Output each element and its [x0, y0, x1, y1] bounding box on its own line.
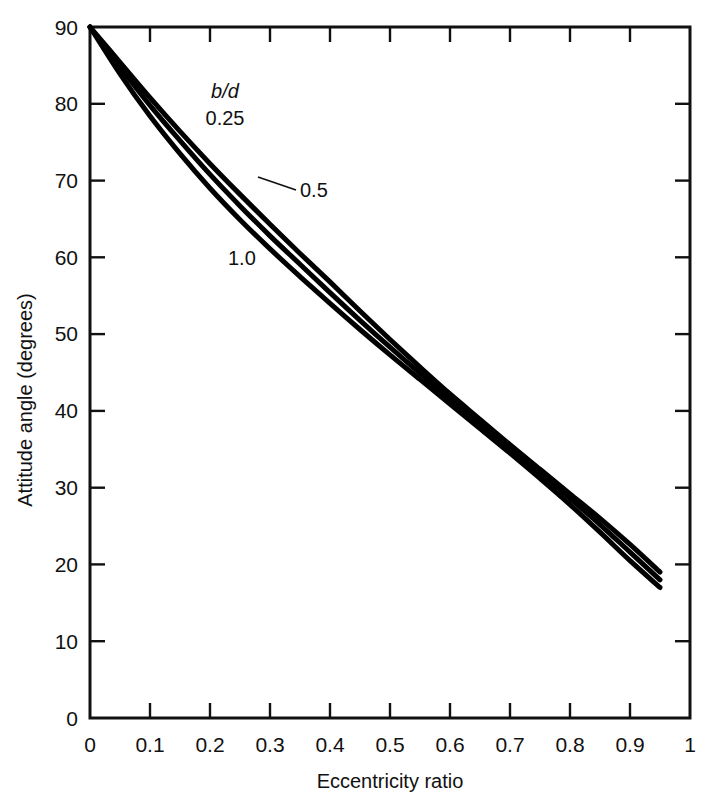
- x-axis-title: Eccentricity ratio: [317, 770, 464, 792]
- y-tick-label-90: 90: [55, 16, 78, 39]
- series-key-label: b/d: [211, 80, 240, 102]
- y-axis-title: Attitude angle (degrees): [14, 293, 36, 506]
- x-tick-label-0.6: 0.6: [435, 733, 464, 756]
- x-tick-label-0: 0: [84, 733, 96, 756]
- y-axis-ticks-right: [675, 104, 690, 641]
- x-tick-label-0.1: 0.1: [135, 733, 164, 756]
- data-curves: [90, 27, 660, 587]
- x-tick-label-0.2: 0.2: [195, 733, 224, 756]
- x-tick-label-0.4: 0.4: [315, 733, 345, 756]
- y-tick-label-10: 10: [55, 630, 78, 653]
- y-tick-label-60: 60: [55, 246, 78, 269]
- chart-svg: 90 80 70 60 50 40 30 20 10 0 0 0.1 0.2 0…: [0, 0, 717, 802]
- leader-line-0.5: [258, 177, 296, 190]
- y-tick-label-80: 80: [55, 92, 78, 115]
- y-tick-label-0: 0: [66, 707, 78, 730]
- y-tick-label-50: 50: [55, 322, 78, 345]
- x-tick-label-0.7: 0.7: [495, 733, 524, 756]
- curve-label-0.25: 0.25: [206, 107, 245, 129]
- y-tick-label-40: 40: [55, 399, 78, 422]
- curve-bd-0.25: [90, 27, 660, 572]
- x-tick-label-1: 1: [684, 733, 696, 756]
- y-tick-labels: 90 80 70 60 50 40 30 20 10 0: [55, 16, 78, 730]
- chart-figure: 90 80 70 60 50 40 30 20 10 0 0 0.1 0.2 0…: [0, 0, 717, 802]
- y-tick-label-20: 20: [55, 553, 78, 576]
- x-tick-labels: 0 0.1 0.2 0.3 0.4 0.5 0.6 0.7 0.8 0.9 1: [84, 733, 696, 756]
- x-axis-ticks: [150, 703, 630, 718]
- x-tick-label-0.9: 0.9: [615, 733, 644, 756]
- x-tick-label-0.8: 0.8: [555, 733, 584, 756]
- y-tick-label-30: 30: [55, 476, 78, 499]
- y-axis-ticks: [90, 104, 105, 641]
- y-tick-label-70: 70: [55, 169, 78, 192]
- x-tick-label-0.3: 0.3: [255, 733, 284, 756]
- x-axis-ticks-top: [150, 27, 630, 42]
- curve-label-1.0: 1.0: [228, 247, 256, 269]
- x-tick-label-0.5: 0.5: [375, 733, 404, 756]
- curve-label-0.5: 0.5: [300, 179, 328, 201]
